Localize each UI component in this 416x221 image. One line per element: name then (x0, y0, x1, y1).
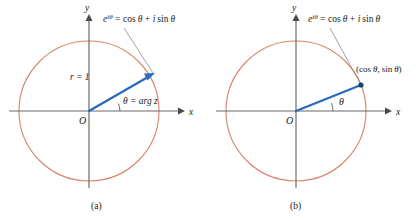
svg-text:(cosθ,sinθ): (cosθ,sinθ) (356, 64, 402, 74)
radius-label: r = 1 (70, 72, 90, 82)
formula-i: i (153, 14, 156, 24)
formula-plus: + (145, 14, 150, 24)
svg-text:eiθ=cosθ+isinθ: eiθ=cosθ+isinθ (308, 13, 380, 24)
angle-label-text: θ = arg z (123, 96, 158, 106)
formula-exponent: iθ (312, 13, 318, 21)
formula-sin: sin (362, 14, 373, 24)
y-axis-label: y (291, 3, 297, 13)
angle-label-text: θ (339, 96, 344, 107)
formula-theta-1: θ (138, 14, 143, 24)
formula-exponent: iθ (107, 13, 113, 21)
formula-i: i (358, 14, 361, 24)
formula-cos: cos (328, 14, 341, 24)
y-axis-label: y (84, 3, 90, 13)
y-axis-arrow-icon (86, 14, 93, 21)
x-axis-arrow-icon (385, 108, 392, 115)
euler-formula: eiθ=cosθ+isinθ (103, 13, 175, 24)
radius-vector (296, 85, 361, 111)
formula-theta-1: θ (343, 14, 348, 24)
formula-equals: = (320, 14, 325, 24)
x-axis-label: x (395, 107, 401, 117)
formula-equals: = (115, 14, 120, 24)
formula-theta-2: θ (375, 14, 380, 24)
panel-b-caption: (b) (290, 201, 301, 212)
x-axis-arrow-icon (178, 108, 185, 115)
formula-plus: + (350, 14, 355, 24)
euler-formula: eiθ=cosθ+isinθ (308, 13, 380, 24)
radius-label-text: r = 1 (70, 72, 90, 82)
point-label-close: ) (399, 64, 402, 74)
euler-formula-figure: x y O r = 1 θ = arg z eiθ=cosθ+isinθ (a) (0, 0, 416, 221)
panel-a: x y O r = 1 θ = arg z eiθ=cosθ+isinθ (a) (9, 3, 194, 212)
point-label-cos: cos (359, 64, 371, 74)
panel-a-caption: (a) (91, 201, 102, 212)
y-axis-arrow-icon (293, 14, 300, 21)
origin-label: O (286, 115, 293, 126)
formula-leader-line (330, 28, 360, 83)
formula-sin: sin (157, 14, 168, 24)
panel-b: x y O θ (cosθ,sinθ) eiθ=cosθ+isinθ ( (216, 3, 402, 212)
angle-arc (332, 103, 334, 111)
formula-theta-2: θ (170, 14, 175, 24)
formula-leader-line (124, 28, 153, 73)
point-marker (358, 82, 363, 87)
point-label: (cosθ,sinθ) (356, 64, 402, 74)
formula-cos: cos (123, 14, 136, 24)
x-axis-label: x (188, 107, 194, 117)
origin-label: O (79, 115, 86, 126)
point-label-comma: , (377, 64, 379, 74)
svg-text:eiθ=cosθ+isinθ: eiθ=cosθ+isinθ (103, 13, 175, 24)
angle-label: θ = arg z (123, 96, 158, 106)
angle-arc (119, 104, 121, 112)
point-label-sin: sin (382, 64, 393, 74)
